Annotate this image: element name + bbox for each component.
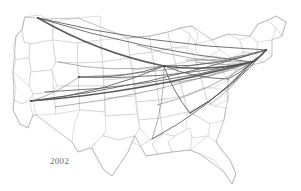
- map-figure-container: 2002: [0, 0, 301, 191]
- hub-marker-DEN: [78, 76, 80, 78]
- hub-marker-JFK: [251, 61, 253, 63]
- hub-marker-ORD: [163, 65, 165, 67]
- hub-marker-SEA: [37, 17, 39, 19]
- us-route-map: [0, 0, 301, 191]
- hub-marker-LAX: [30, 100, 32, 102]
- year-label: 2002: [50, 156, 69, 166]
- hub-marker-BOS: [265, 49, 267, 51]
